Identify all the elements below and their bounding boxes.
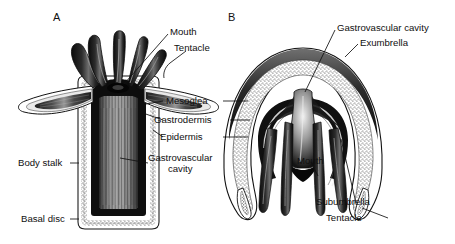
label-medusa-mouth: Mouth: [297, 155, 324, 166]
panel-letter-b: B: [228, 11, 236, 23]
label-medusa-gastrovascular-cavity: Gastrovascular cavity: [337, 22, 429, 33]
leader-polyp-tentacle-hook: [164, 63, 170, 78]
label-medusa-subumbrella: Subumbrella: [316, 196, 370, 207]
label-polyp-body-stalk: Body stalk: [18, 157, 62, 168]
label-polyp-gastrovascular-cavity: Gastrovascular cavity: [148, 152, 213, 174]
label-polyp-mouth: Mouth: [170, 26, 197, 37]
label-polyp-basal-disc: Basal disc: [21, 213, 65, 224]
polyp-cavity-shading: [99, 96, 138, 209]
label-gvc-line2: cavity: [148, 163, 213, 174]
label-gvc-line1: Gastrovascular: [148, 152, 213, 163]
leader-medusa-exumbrella: [345, 44, 358, 57]
polyp-drawing: [18, 31, 218, 229]
polyp-mouth-structure: [107, 83, 129, 93]
panel-letter-a: A: [53, 11, 61, 23]
medusa-drawing: [224, 48, 382, 220]
label-medusa-exumbrella: Exumbrella: [360, 37, 408, 48]
label-gastrodermis: Gastrodermis: [154, 114, 212, 125]
cnidaria-polyp-medusa-figure: A B Mouth Tentacle Body stalk Basal disc…: [0, 0, 455, 244]
label-mesoglea: Mesoglea: [166, 95, 208, 106]
label-medusa-tentacle: Tentacle: [326, 212, 362, 223]
label-epidermis: Epidermis: [160, 131, 203, 142]
label-polyp-tentacle: Tentacle: [174, 42, 210, 53]
